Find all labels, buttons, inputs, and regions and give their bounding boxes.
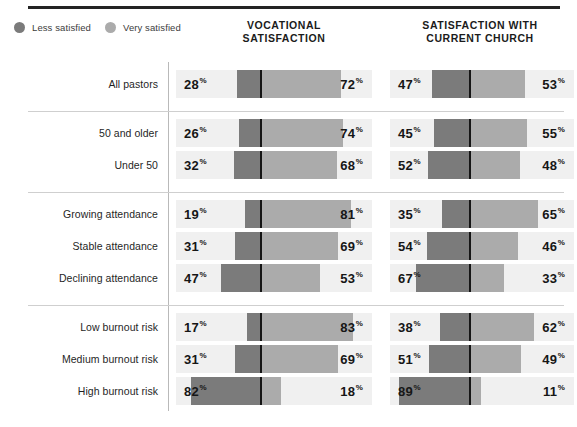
- bar-midline: [260, 313, 262, 341]
- chart-row: Declining attendance47%53%67%33%: [0, 264, 577, 292]
- percent-sign: %: [558, 351, 565, 360]
- value-less-satisfied: 54%: [398, 239, 421, 252]
- bar-cell-vocational: 19%81%: [176, 200, 372, 228]
- percent-sign: %: [413, 270, 420, 279]
- bar-midline: [260, 377, 262, 405]
- value-very-satisfied: 55%: [542, 126, 565, 139]
- percent-sign: %: [413, 351, 420, 360]
- value-very-satisfied: 33%: [542, 271, 565, 284]
- satisfaction-chart: Less satisfiedVery satisfied VOCATIONAL …: [0, 0, 577, 427]
- bar-cell-vocational: 32%68%: [176, 151, 372, 179]
- percent-sign: %: [199, 351, 206, 360]
- column-header-line1: VOCATIONAL: [186, 19, 382, 32]
- percent-sign: %: [356, 351, 363, 360]
- row-label: High burnout risk: [0, 385, 158, 397]
- value-very-satisfied: 18%: [340, 384, 363, 397]
- value-very-satisfied: 49%: [542, 352, 565, 365]
- percent-sign: %: [199, 383, 206, 392]
- bar-midline: [469, 70, 471, 98]
- bar-segment-less-satisfied: [416, 264, 470, 292]
- group-separator: [28, 192, 564, 193]
- chart-row: Low burnout risk17%83%38%62%: [0, 313, 577, 341]
- chart-body: All pastors28%72%47%53%50 and older26%74…: [0, 62, 577, 418]
- legend-dot-icon: [14, 22, 25, 33]
- value-less-satisfied: 17%: [184, 320, 207, 333]
- bar-segment-less-satisfied: [442, 200, 470, 228]
- bar-segment-very-satisfied: [470, 70, 525, 98]
- bar-segment-very-satisfied: [261, 70, 341, 98]
- bar-segment-very-satisfied: [470, 345, 521, 373]
- bar-segment-less-satisfied: [427, 232, 470, 260]
- bar-segment-very-satisfied: [261, 232, 337, 260]
- percent-sign: %: [413, 206, 420, 215]
- bar-midline: [469, 345, 471, 373]
- bar-segment-very-satisfied: [470, 119, 527, 147]
- column-header-vocational: VOCATIONAL SATISFACTION: [186, 19, 382, 44]
- value-very-satisfied: 69%: [340, 239, 363, 252]
- percent-sign: %: [413, 319, 420, 328]
- value-very-satisfied: 53%: [340, 271, 363, 284]
- value-very-satisfied: 62%: [542, 320, 565, 333]
- percent-sign: %: [558, 238, 565, 247]
- percent-sign: %: [413, 125, 420, 134]
- percent-sign: %: [199, 125, 206, 134]
- bar-midline: [260, 345, 262, 373]
- bar-midline: [260, 232, 262, 260]
- value-less-satisfied: 47%: [398, 77, 421, 90]
- chart-row: Stable attendance31%69%54%46%: [0, 232, 577, 260]
- bar-segment-very-satisfied: [470, 232, 518, 260]
- bar-segment-very-satisfied: [470, 313, 534, 341]
- value-less-satisfied: 32%: [184, 158, 207, 171]
- bar-cell-vocational: 31%69%: [176, 345, 372, 373]
- bar-segment-less-satisfied: [434, 119, 470, 147]
- bar-cell-vocational: 31%69%: [176, 232, 372, 260]
- group-spacer: [0, 192, 577, 200]
- bar-segment-less-satisfied: [245, 200, 261, 228]
- legend: Less satisfiedVery satisfied: [14, 22, 181, 33]
- value-less-satisfied: 82%: [184, 384, 207, 397]
- bar-cell-vocational: 28%72%: [176, 70, 372, 98]
- bar-cell-current-church: 51%49%: [390, 345, 574, 373]
- percent-sign: %: [356, 125, 363, 134]
- percent-sign: %: [356, 76, 363, 85]
- value-very-satisfied: 83%: [340, 320, 363, 333]
- bar-segment-less-satisfied: [237, 70, 261, 98]
- bar-midline: [469, 232, 471, 260]
- column-header-line2: SATISFACTION: [186, 32, 382, 45]
- percent-sign: %: [199, 206, 206, 215]
- value-less-satisfied: 19%: [184, 207, 207, 220]
- row-group-burnout: Low burnout risk17%83%38%62%Medium burno…: [0, 305, 577, 418]
- value-less-satisfied: 31%: [184, 352, 207, 365]
- bar-segment-less-satisfied: [239, 119, 261, 147]
- bar-cell-current-church: 89%11%: [390, 377, 574, 405]
- value-less-satisfied: 52%: [398, 158, 421, 171]
- percent-sign: %: [199, 157, 206, 166]
- percent-sign: %: [558, 76, 565, 85]
- top-rule: [28, 6, 560, 9]
- bar-segment-very-satisfied: [470, 200, 538, 228]
- bar-midline: [260, 151, 262, 179]
- bar-segment-very-satisfied: [261, 200, 351, 228]
- value-very-satisfied: 53%: [542, 77, 565, 90]
- value-less-satisfied: 31%: [184, 239, 207, 252]
- bar-cell-current-church: 35%65%: [390, 200, 574, 228]
- bar-segment-very-satisfied: [261, 264, 320, 292]
- percent-sign: %: [558, 206, 565, 215]
- percent-sign: %: [558, 319, 565, 328]
- percent-sign: %: [356, 157, 363, 166]
- value-very-satisfied: 68%: [340, 158, 363, 171]
- bar-segment-very-satisfied: [261, 151, 336, 179]
- bar-segment-very-satisfied: [470, 151, 520, 179]
- bar-cell-vocational: 26%74%: [176, 119, 372, 147]
- group-separator: [28, 305, 564, 306]
- row-label: All pastors: [0, 78, 158, 90]
- bar-cell-current-church: 52%48%: [390, 151, 574, 179]
- row-label: Stable attendance: [0, 240, 158, 252]
- percent-sign: %: [413, 157, 420, 166]
- column-header-line2: CURRENT CHURCH: [388, 32, 572, 45]
- percent-sign: %: [199, 76, 206, 85]
- value-less-satisfied: 38%: [398, 320, 421, 333]
- chart-row: All pastors28%72%47%53%: [0, 70, 577, 98]
- percent-sign: %: [558, 125, 565, 134]
- bar-segment-very-satisfied: [261, 119, 343, 147]
